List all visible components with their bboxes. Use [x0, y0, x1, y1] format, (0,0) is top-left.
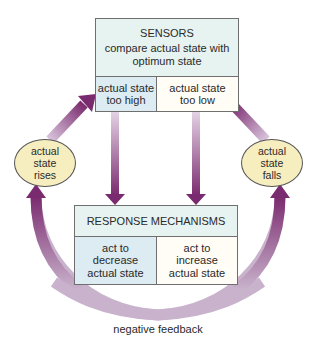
cell-text: decrease	[87, 254, 143, 267]
state-falls-ellipse: actual state falls	[241, 139, 303, 187]
arrowhead-down-right	[186, 194, 206, 205]
sensors-too-high-cell: actual state too high	[96, 77, 156, 111]
cell-text: actual state	[98, 82, 154, 95]
sensors-box: SENSORS compare actual state with optimu…	[95, 18, 239, 112]
cell-text: too low	[169, 94, 225, 107]
sensors-subtitle-2: optimum state	[132, 55, 201, 68]
state-rises-ellipse: actual state rises	[14, 139, 76, 187]
ellipse-text: falls	[258, 169, 286, 181]
ellipse-text: state	[31, 157, 59, 169]
response-title: RESPONSE MECHANISMS	[87, 215, 226, 228]
sensors-too-low-cell: actual state too low	[156, 77, 238, 111]
arrowhead-down-left	[105, 194, 125, 205]
cell-text: actual state	[169, 82, 225, 95]
cell-text: actual state	[169, 267, 225, 280]
ellipse-text: actual	[31, 145, 59, 157]
sensors-header: SENSORS compare actual state with optimu…	[96, 19, 238, 77]
sensors-subtitle-1: compare actual state with	[105, 42, 230, 55]
ellipse-text: rises	[31, 169, 59, 181]
response-header: RESPONSE MECHANISMS	[75, 206, 237, 237]
response-decrease-cell: act to decrease actual state	[75, 237, 156, 284]
ellipse-text: actual	[258, 145, 286, 157]
cell-text: act to	[169, 242, 225, 255]
response-increase-cell: act to increase actual state	[156, 237, 237, 284]
cell-text: increase	[169, 254, 225, 267]
caption-negative-feedback: negative feedback	[0, 323, 316, 335]
sensors-title: SENSORS	[140, 27, 194, 40]
cell-text: actual state	[87, 267, 143, 280]
cell-text: act to	[87, 242, 143, 255]
cell-text: too high	[98, 94, 154, 107]
ellipse-text: state	[258, 157, 286, 169]
response-box: RESPONSE MECHANISMS act to decrease actu…	[74, 205, 238, 285]
